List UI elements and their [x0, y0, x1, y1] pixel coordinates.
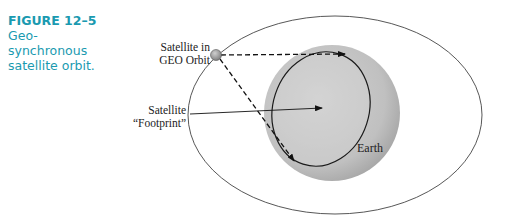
- footprint-label-line1: Satellite: [100, 104, 186, 117]
- footprint-label-line2: “Footprint”: [100, 117, 186, 130]
- satellite-icon: [211, 50, 222, 61]
- footprint-label: Satellite “Footprint”: [100, 104, 186, 130]
- satellite-label-line2: GEO Orbit: [136, 54, 210, 67]
- satellite-label: Satellite in GEO Orbit: [136, 41, 210, 67]
- earth-label: Earth: [357, 141, 383, 156]
- geo-orbit-diagram: [0, 0, 510, 224]
- satellite-label-line1: Satellite in: [136, 41, 210, 54]
